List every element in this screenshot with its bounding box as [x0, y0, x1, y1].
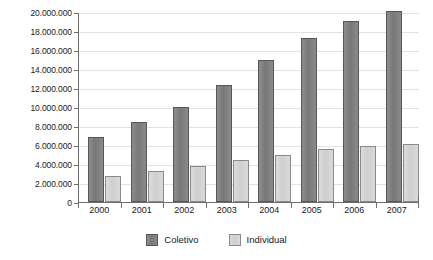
y-axis-tick-label: 14.000.000 — [30, 66, 72, 75]
y-axis-tick — [74, 89, 79, 90]
bar-individual-2005 — [318, 149, 334, 202]
legend-label: Coletivo — [164, 235, 198, 245]
y-axis-tick — [74, 146, 79, 147]
bar-coletivo-2005 — [301, 38, 317, 202]
x-axis-tick-label-2006: 2006 — [332, 206, 376, 215]
x-axis-tick-label-2007: 2007 — [375, 206, 419, 215]
bar-coletivo-2002 — [173, 107, 189, 202]
y-axis-tick-label: 18.000.000 — [30, 28, 72, 37]
legend-swatch-icon — [229, 234, 241, 246]
x-axis-tick-label-2001: 2001 — [120, 206, 164, 215]
y-axis-tick-label: 10.000.000 — [30, 104, 72, 113]
y-axis-tick-label: 6.000.000 — [35, 142, 72, 151]
y-axis-tick-label: 2.000.000 — [35, 180, 72, 189]
bar-group-2007 — [386, 12, 419, 202]
bar-coletivo-2000 — [88, 137, 104, 202]
y-axis-tick — [74, 184, 79, 185]
bar-group-2005 — [301, 12, 334, 202]
bar-individual-2006 — [360, 146, 376, 202]
legend-swatch-icon — [146, 234, 158, 246]
legend-item-coletivo[interactable]: Coletivo — [146, 234, 198, 246]
bar-group-2000 — [88, 12, 121, 202]
bar-group-2001 — [131, 12, 164, 202]
bar-individual-2000 — [105, 176, 121, 202]
x-axis-tick-label-2002: 2002 — [162, 206, 206, 215]
bar-individual-2002 — [190, 166, 206, 202]
y-axis-tick — [74, 127, 79, 128]
bar-group-2002 — [173, 12, 206, 202]
y-axis-tick — [74, 32, 79, 33]
y-axis-tick — [74, 13, 79, 14]
bar-coletivo-2006 — [343, 21, 359, 202]
bar-group-2004 — [258, 12, 291, 202]
bar-individual-2004 — [275, 155, 291, 203]
bar-group-2006 — [343, 12, 376, 202]
bar-individual-2003 — [233, 160, 249, 202]
bar-individual-2007 — [403, 144, 419, 202]
x-axis-tick-label-2003: 2003 — [205, 206, 249, 215]
y-axis-tick-label: 16.000.000 — [30, 47, 72, 56]
y-axis-labels: 02.000.0004.000.0006.000.0008.000.00010.… — [0, 0, 72, 260]
bar-coletivo-2003 — [216, 85, 232, 202]
x-axis-tick-label-2004: 2004 — [247, 206, 291, 215]
y-axis-tick-label: 20.000.000 — [30, 9, 72, 18]
y-axis-tick-label: 8.000.000 — [35, 123, 72, 132]
axis-right-stub — [418, 196, 419, 204]
bar-coletivo-2007 — [386, 11, 402, 202]
x-axis-tick-label-2000: 2000 — [77, 206, 121, 215]
legend-label: Individual — [247, 235, 287, 245]
y-axis-tick-label: 0 — [67, 199, 72, 208]
legend-item-individual[interactable]: Individual — [229, 234, 287, 246]
y-axis-tick-label: 12.000.000 — [30, 85, 72, 94]
y-axis-tick — [74, 108, 79, 109]
plot-area — [78, 13, 418, 203]
bar-chart: 02.000.0004.000.0006.000.0008.000.00010.… — [0, 0, 433, 260]
y-axis-tick-label: 4.000.000 — [35, 161, 72, 170]
bar-group-2003 — [216, 12, 249, 202]
chart-legend: ColetivoIndividual — [0, 234, 433, 246]
y-axis-tick — [74, 51, 79, 52]
y-axis-tick — [74, 165, 79, 166]
bar-coletivo-2004 — [258, 60, 274, 202]
bar-coletivo-2001 — [131, 122, 147, 202]
bar-individual-2001 — [148, 171, 164, 202]
y-axis-tick — [74, 70, 79, 71]
x-axis-tick-label-2005: 2005 — [290, 206, 334, 215]
